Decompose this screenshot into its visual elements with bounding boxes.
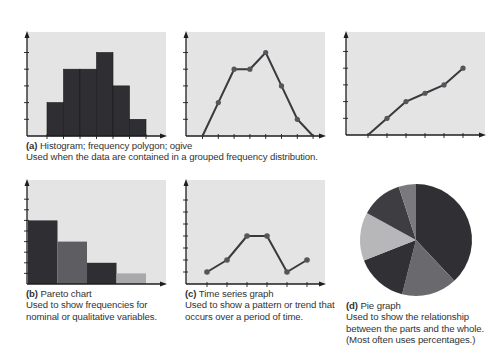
data-point	[284, 269, 290, 275]
histogram-bar	[97, 53, 114, 137]
pareto-bar	[28, 220, 58, 284]
caption-b-tag: (b)	[26, 288, 38, 299]
data-point	[279, 83, 284, 88]
data-point	[244, 233, 250, 239]
caption-b: (b) Pareto chart Used to show frequencie…	[26, 288, 157, 322]
ogive-chart	[343, 31, 486, 138]
data-point	[216, 100, 221, 105]
caption-a-description: Used when the data are contained in a gr…	[26, 151, 318, 162]
data-point	[232, 67, 237, 72]
data-point	[204, 269, 210, 275]
data-point	[304, 257, 310, 263]
caption-a-title: Histogram; frequency polygon; ogive	[40, 140, 192, 151]
caption-d: (d) Pie graph Used to show the relations…	[346, 300, 484, 346]
caption-d-title: Pie graph	[361, 300, 401, 311]
data-point	[384, 116, 389, 121]
caption-a-tag: (a)	[26, 140, 37, 151]
histogram-bar	[113, 86, 130, 136]
data-point	[247, 67, 252, 72]
plot-background	[186, 32, 325, 136]
caption-c-title: Time series graph	[199, 288, 274, 299]
data-point	[460, 66, 465, 71]
data-point	[441, 82, 446, 87]
data-point	[403, 99, 408, 104]
histogram-bar	[47, 103, 64, 136]
data-point	[263, 50, 268, 55]
caption-d-line3: (Most often uses percentages.)	[346, 334, 484, 345]
histogram-bar	[130, 119, 147, 136]
pareto-bar	[87, 263, 117, 284]
data-point	[422, 91, 427, 96]
pareto-bar	[117, 273, 147, 284]
data-point	[295, 117, 300, 122]
caption-b-title: Pareto chart	[41, 288, 92, 299]
histogram-chart	[24, 31, 167, 139]
time-series-chart	[183, 179, 326, 287]
histogram-bar	[64, 69, 81, 136]
frequency-polygon-chart	[183, 31, 326, 139]
caption-a: (a) Histogram; frequency polygon; ogive …	[26, 140, 318, 163]
plot-background	[186, 180, 325, 284]
pie-chart	[360, 184, 472, 296]
pareto-bar	[58, 242, 88, 284]
histogram-bar	[80, 69, 97, 136]
data-point	[224, 257, 230, 263]
caption-b-line2: nominal or qualitative variables.	[26, 311, 157, 322]
caption-d-line1: Used to show the relationship	[346, 311, 484, 322]
caption-b-line1: Used to show frequencies for	[26, 299, 157, 310]
data-point	[264, 233, 270, 239]
caption-c-line2: occurs over a period of time.	[185, 311, 334, 322]
caption-c-line1: Used to show a pattern or trend that	[185, 299, 334, 310]
caption-c-tag: (c)	[185, 288, 196, 299]
pareto-chart	[24, 179, 167, 287]
caption-d-tag: (d)	[346, 300, 358, 311]
caption-d-line2: between the parts and the whole.	[346, 323, 484, 334]
plot-background	[346, 32, 485, 135]
caption-c: (c) Time series graph Used to show a pat…	[185, 288, 334, 322]
